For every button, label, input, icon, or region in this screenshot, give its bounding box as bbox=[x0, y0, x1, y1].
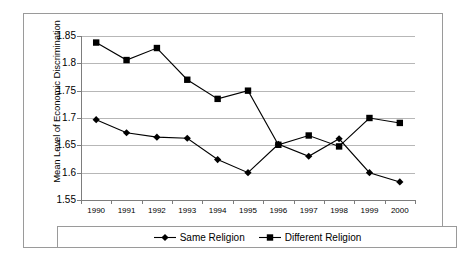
data-point-marker bbox=[93, 39, 99, 45]
chart-legend: Same ReligionDifferent Religion bbox=[57, 226, 457, 248]
y-tick-label: 1.55 bbox=[36, 195, 76, 205]
chart-container: Mean Level of Economic Discrimination 1.… bbox=[0, 0, 468, 261]
data-point-marker bbox=[123, 129, 130, 136]
x-tick-mark bbox=[111, 200, 112, 204]
data-point-marker bbox=[153, 134, 160, 141]
data-point-marker bbox=[306, 132, 312, 138]
x-tick-mark bbox=[294, 200, 295, 204]
series-plot bbox=[81, 36, 415, 200]
data-point-marker bbox=[305, 153, 312, 160]
x-axis-line bbox=[81, 200, 415, 201]
x-tick-mark bbox=[81, 200, 82, 204]
x-tick-label: 2000 bbox=[380, 206, 420, 216]
x-tick-mark bbox=[415, 200, 416, 204]
y-tick-label: 1.65 bbox=[36, 140, 76, 150]
legend-marker-diamond-icon bbox=[153, 232, 177, 243]
y-tick-label: 1.8 bbox=[36, 58, 76, 68]
chart-frame: Mean Level of Economic Discrimination 1.… bbox=[23, 13, 443, 248]
data-point-marker bbox=[93, 116, 100, 123]
data-point-marker bbox=[366, 115, 372, 121]
data-point-marker bbox=[396, 178, 403, 185]
legend-label: Different Religion bbox=[285, 232, 362, 243]
y-tick-label: 1.6 bbox=[36, 168, 76, 178]
x-tick-mark bbox=[202, 200, 203, 204]
data-point-marker bbox=[397, 120, 403, 126]
data-point-marker bbox=[154, 45, 160, 51]
x-tick-mark bbox=[324, 200, 325, 204]
series-same-religion bbox=[93, 116, 404, 186]
data-point-marker bbox=[214, 156, 221, 163]
legend-entry[interactable]: Same Religion bbox=[153, 232, 245, 243]
x-tick-mark bbox=[142, 200, 143, 204]
data-point-marker bbox=[275, 142, 281, 148]
data-point-marker bbox=[245, 87, 251, 93]
y-axis-tick-labels: 1.551.61.651.71.751.81.85 bbox=[32, 36, 76, 200]
series-line bbox=[96, 43, 400, 147]
data-point-marker bbox=[123, 57, 129, 63]
x-tick-mark bbox=[385, 200, 386, 204]
legend-entry[interactable]: Different Religion bbox=[258, 232, 362, 243]
plot-area bbox=[81, 36, 415, 200]
legend-label: Same Religion bbox=[180, 232, 245, 243]
data-point-marker bbox=[336, 143, 342, 149]
data-point-marker bbox=[214, 96, 220, 102]
data-point-marker bbox=[184, 135, 191, 142]
x-tick-mark bbox=[263, 200, 264, 204]
x-axis-tick-labels: 1990199119921993199419951996199719981999… bbox=[81, 206, 415, 220]
y-tick-label: 1.85 bbox=[36, 31, 76, 41]
legend-marker-square-icon bbox=[258, 232, 282, 243]
x-tick-mark bbox=[172, 200, 173, 204]
series-different-religion bbox=[93, 39, 403, 149]
y-tick-label: 1.75 bbox=[36, 86, 76, 96]
x-tick-mark bbox=[354, 200, 355, 204]
y-tick-label: 1.7 bbox=[36, 113, 76, 123]
data-point-marker bbox=[184, 77, 190, 83]
x-tick-mark bbox=[233, 200, 234, 204]
